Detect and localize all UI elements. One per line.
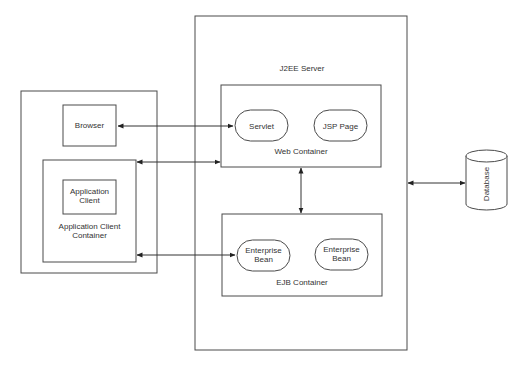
servlet-node: Servlet xyxy=(235,110,288,141)
ejb-container-label: EJB Container xyxy=(276,278,328,287)
enterprise-bean-node-1: Enterprise Bean xyxy=(237,240,290,271)
web-container-label: Web Container xyxy=(274,147,328,156)
app-client-label-2: Client xyxy=(79,196,100,205)
enterprise-bean-2-label-1: Enterprise xyxy=(323,245,360,254)
app-client-container-label-2: Container xyxy=(72,231,107,240)
app-client-node: Application Client xyxy=(63,180,116,214)
jsp-page-label: JSP Page xyxy=(323,122,359,131)
enterprise-bean-2-label-2: Bean xyxy=(332,254,351,263)
enterprise-bean-1-label-1: Enterprise xyxy=(245,246,282,255)
app-client-label-1: Application xyxy=(70,187,109,196)
architecture-diagram: Browser Application Client Container App… xyxy=(0,0,525,366)
database-label: Database xyxy=(482,166,491,201)
servlet-label: Servlet xyxy=(249,122,275,131)
jsp-page-node: JSP Page xyxy=(314,110,367,141)
enterprise-bean-1-label-2: Bean xyxy=(254,255,273,264)
enterprise-bean-node-2: Enterprise Bean xyxy=(315,239,368,270)
browser-node: Browser xyxy=(63,105,116,146)
browser-label: Browser xyxy=(75,121,105,130)
j2ee-server-label: J2EE Server xyxy=(280,64,325,73)
app-client-container-label-1: Application Client xyxy=(59,222,122,231)
database-node: Database xyxy=(466,150,507,210)
